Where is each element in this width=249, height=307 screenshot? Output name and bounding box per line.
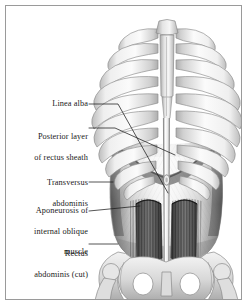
label-line-1: Transversus: [47, 178, 88, 187]
label-line-2: internal oblique: [34, 227, 88, 236]
label-line-2: abdominis (cut): [34, 270, 88, 279]
sternum: [156, 20, 178, 121]
label-line-1: Posterior layer: [38, 132, 88, 141]
linea-alba: [163, 118, 170, 266]
pubic-symphysis: [161, 272, 172, 296]
sternum-manubrium: [156, 20, 178, 36]
label-posterior-layer-of-rectus-sheath: Posterior layer of rectus sheath: [16, 122, 88, 163]
label-linea-alba: Linea alba: [28, 99, 88, 109]
obturator-foramen-left: [133, 273, 153, 295]
obturator-foramen-right: [180, 273, 200, 295]
label-rectus-abdominis-cut: Rectus abdominis (cut): [10, 239, 88, 280]
label-line-1: Aponeurosis of: [36, 206, 88, 215]
label-line-2: of rectus sheath: [34, 153, 88, 162]
anatomy-figure: Linea alba Posterior layer of rectus she…: [0, 0, 249, 307]
label-line-1: Rectus: [65, 249, 88, 258]
sternum-body: [160, 35, 174, 98]
xiphoid-process: [162, 97, 172, 121]
